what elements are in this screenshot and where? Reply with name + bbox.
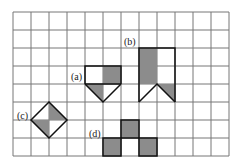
grid-diagram: (a) (b) (c) (d)	[0, 0, 247, 167]
label-c: (c)	[17, 110, 28, 122]
label-d: (d)	[89, 128, 101, 140]
label-a: (a)	[71, 71, 82, 83]
figure-d	[103, 120, 157, 156]
figure-c	[31, 102, 67, 138]
label-b: (b)	[124, 36, 136, 48]
figure-a	[85, 66, 121, 102]
